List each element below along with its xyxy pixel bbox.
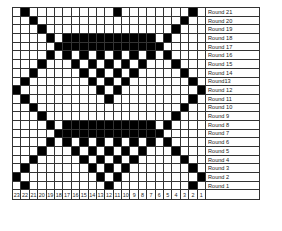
empty-cell (130, 8, 138, 17)
empty-cell (13, 181, 21, 190)
round-label: Round 21 (205, 8, 259, 17)
empty-cell (197, 16, 205, 25)
empty-cell (130, 16, 138, 25)
filled-cell (113, 86, 121, 95)
filled-cell (147, 129, 155, 138)
empty-cell (46, 42, 54, 51)
empty-cell (155, 77, 163, 86)
filled-cell (189, 8, 197, 17)
filled-cell (113, 8, 121, 17)
empty-cell (105, 173, 113, 182)
round-row: Round 11 (13, 94, 260, 103)
empty-cell (63, 94, 71, 103)
empty-cell (54, 94, 62, 103)
filled-cell (80, 138, 88, 147)
filled-cell (172, 112, 180, 121)
empty-cell (147, 112, 155, 121)
empty-cell (71, 155, 79, 164)
empty-cell (21, 112, 29, 121)
empty-cell (46, 16, 54, 25)
empty-cell (54, 181, 62, 190)
empty-cell (189, 147, 197, 156)
empty-cell (138, 8, 146, 17)
round-row: Round 6 (13, 138, 260, 147)
empty-cell (155, 155, 163, 164)
empty-cell (164, 129, 172, 138)
round-label: Round 8 (205, 120, 259, 129)
empty-cell (29, 181, 37, 190)
empty-cell (172, 129, 180, 138)
empty-cell (138, 77, 146, 86)
filled-cell (172, 25, 180, 34)
round-label: Round 20 (205, 16, 259, 25)
empty-cell (147, 147, 155, 156)
empty-cell (130, 147, 138, 156)
empty-cell (88, 51, 96, 60)
empty-cell (21, 86, 29, 95)
empty-cell (29, 138, 37, 147)
empty-cell (46, 103, 54, 112)
empty-cell (63, 25, 71, 34)
empty-cell (63, 147, 71, 156)
empty-cell (38, 155, 46, 164)
empty-cell (113, 25, 121, 34)
empty-cell (172, 51, 180, 60)
filled-cell (180, 68, 188, 77)
empty-cell (197, 138, 205, 147)
empty-cell (189, 16, 197, 25)
empty-cell (164, 86, 172, 95)
empty-cell (180, 120, 188, 129)
empty-cell (122, 68, 130, 77)
empty-cell (197, 155, 205, 164)
empty-cell (71, 77, 79, 86)
filled-cell (29, 155, 37, 164)
empty-cell (113, 164, 121, 173)
filled-cell (164, 51, 172, 60)
empty-cell (197, 34, 205, 43)
round-row: Round 12 (13, 86, 260, 95)
empty-cell (147, 25, 155, 34)
empty-cell (189, 68, 197, 77)
filled-cell (88, 77, 96, 86)
empty-cell (63, 86, 71, 95)
empty-cell (80, 181, 88, 190)
empty-cell (71, 94, 79, 103)
empty-cell (21, 51, 29, 60)
filled-cell (71, 120, 79, 129)
round-row: Round 20 (13, 16, 260, 25)
empty-cell (138, 68, 146, 77)
empty-cell (38, 129, 46, 138)
filled-cell (147, 42, 155, 51)
filled-cell (63, 138, 71, 147)
filled-cell (113, 68, 121, 77)
filled-cell (105, 120, 113, 129)
empty-cell (172, 42, 180, 51)
empty-cell (197, 68, 205, 77)
empty-cell (138, 25, 146, 34)
empty-cell (29, 173, 37, 182)
empty-cell (29, 147, 37, 156)
empty-cell (172, 120, 180, 129)
empty-cell (147, 155, 155, 164)
empty-cell (46, 173, 54, 182)
empty-cell (71, 138, 79, 147)
empty-cell (80, 25, 88, 34)
empty-cell (96, 60, 104, 69)
round-row: Round 18 (13, 34, 260, 43)
empty-cell (180, 147, 188, 156)
filled-cell (122, 120, 130, 129)
empty-cell (138, 86, 146, 95)
empty-cell (38, 173, 46, 182)
empty-cell (96, 147, 104, 156)
empty-cell (197, 164, 205, 173)
empty-cell (147, 8, 155, 17)
filled-cell (71, 60, 79, 69)
empty-cell (13, 42, 21, 51)
empty-cell (113, 77, 121, 86)
filled-cell (46, 120, 54, 129)
filled-cell (13, 86, 21, 95)
empty-cell (130, 181, 138, 190)
filled-cell (105, 164, 113, 173)
empty-cell (96, 112, 104, 121)
empty-cell (46, 164, 54, 173)
